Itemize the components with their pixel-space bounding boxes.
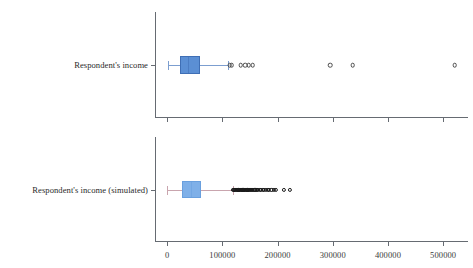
whisker-high	[201, 190, 232, 191]
cap-low	[167, 186, 168, 195]
y-axis-spine	[155, 12, 156, 118]
x-axis-tick	[167, 242, 168, 246]
x-axis-tick	[333, 118, 334, 122]
outlier-point	[274, 187, 278, 191]
x-axis-tick	[443, 118, 444, 122]
x-axis-tick	[167, 118, 168, 122]
median-line	[191, 181, 192, 198]
outlier-point	[328, 63, 333, 68]
x-axis-tick	[333, 242, 334, 246]
x-axis-tick-label: 200000	[264, 250, 290, 260]
box-iqr	[180, 56, 200, 74]
x-axis-tick	[388, 118, 389, 122]
x-axis-tick-label: 0	[165, 250, 169, 260]
median-line	[188, 56, 189, 74]
outlier-point	[229, 63, 234, 68]
outlier-point	[288, 187, 292, 191]
outlier-point	[350, 63, 355, 68]
x-axis-tick	[222, 118, 223, 122]
category-label-simulated: Respondent's income (simulated)	[32, 185, 148, 195]
whisker-high	[200, 65, 228, 66]
boxplot-panel-simulated: 0100000200000300000400000500000Responden…	[155, 137, 468, 242]
category-label-observed: Respondent's income	[74, 60, 148, 70]
x-axis-spine	[155, 117, 468, 118]
whisker-low	[167, 190, 182, 191]
x-axis-tick-label: 400000	[375, 250, 401, 260]
x-axis-tick	[443, 242, 444, 246]
y-axis-tick	[151, 190, 155, 191]
x-axis-tick	[278, 118, 279, 122]
x-axis-tick	[278, 242, 279, 246]
whisker-low	[168, 65, 181, 66]
cap-low	[168, 61, 169, 70]
x-axis-tick-label: 100000	[209, 250, 235, 260]
y-axis-tick	[151, 65, 155, 66]
outlier-point	[250, 63, 255, 68]
outlier-point	[282, 187, 286, 191]
x-axis-spine	[155, 241, 468, 242]
x-axis-tick-label: 300000	[320, 250, 346, 260]
figure-canvas: Respondent's income010000020000030000040…	[0, 0, 473, 268]
x-axis-tick	[388, 242, 389, 246]
x-axis-tick-label: 500000	[430, 250, 456, 260]
boxplot-panel-observed: Respondent's income	[155, 12, 468, 118]
y-axis-spine	[155, 137, 156, 242]
outlier-point	[452, 63, 457, 68]
x-axis-tick	[222, 242, 223, 246]
